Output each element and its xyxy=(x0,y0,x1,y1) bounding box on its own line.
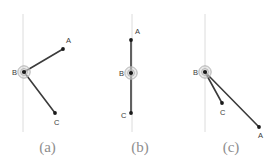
point-marker-A xyxy=(257,125,261,129)
point-label-A: A xyxy=(66,36,71,45)
point-marker-B xyxy=(203,70,207,74)
caption-row: (a) (b) (c) xyxy=(0,136,277,168)
panel-b: ABC xyxy=(95,0,185,140)
point-marker-A xyxy=(61,47,65,51)
caption-panel-b: (b) xyxy=(95,136,185,158)
point-label-C: C xyxy=(220,108,226,117)
segment-BA xyxy=(205,72,259,127)
caption-panel-a: (a) xyxy=(0,136,95,158)
point-label-B: B xyxy=(193,68,198,77)
panel-a: ABC xyxy=(0,0,95,140)
point-label-B: B xyxy=(119,69,124,78)
segment-BA xyxy=(24,49,63,72)
segment-BC xyxy=(24,72,55,113)
caption-panel-c: (c) xyxy=(185,136,277,158)
point-marker-C xyxy=(53,111,57,115)
point-label-B: B xyxy=(12,68,17,77)
point-marker-C xyxy=(129,111,133,115)
point-marker-B xyxy=(129,71,133,75)
point-label-C: C xyxy=(121,111,127,120)
panel-c: ABC xyxy=(185,0,277,140)
figure-canvas: ABC ABC ABC (a) (b) (c) xyxy=(0,0,277,168)
point-label-A: A xyxy=(135,27,140,36)
panel-a-plot: ABC xyxy=(0,0,95,140)
panel-b-plot: ABC xyxy=(95,0,185,140)
point-label-C: C xyxy=(54,118,60,127)
point-marker-B xyxy=(22,70,26,74)
point-marker-C xyxy=(220,101,224,105)
panel-c-plot: ABC xyxy=(185,0,277,140)
point-marker-A xyxy=(129,38,133,42)
